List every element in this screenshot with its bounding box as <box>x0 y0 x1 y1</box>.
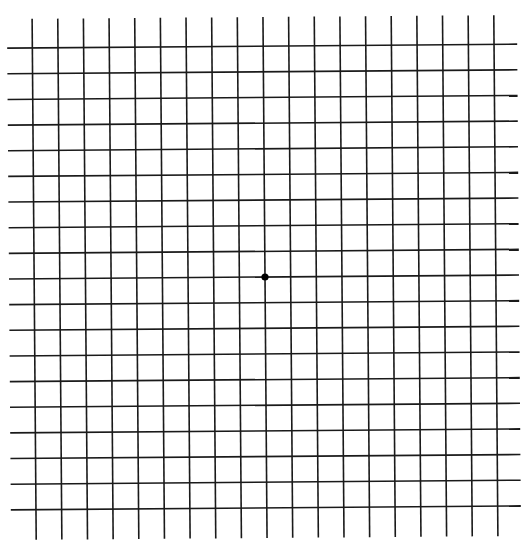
center-fixation-dot <box>261 273 268 280</box>
grid-canvas <box>0 0 527 546</box>
amsler-grid <box>0 0 527 546</box>
